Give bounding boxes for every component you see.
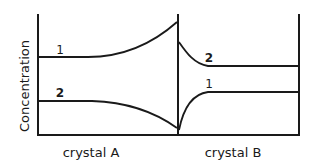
- y-axis-label: Concentration: [17, 40, 32, 132]
- crystal-b-label: crystal B: [205, 145, 262, 160]
- crystal-a-label: crystal A: [63, 145, 120, 160]
- curve-1-label-b: 1: [205, 77, 213, 91]
- curve-1-crystal-b: [179, 92, 299, 130]
- concentration-profile-diagram: 1 2 2 1 Concentration crystal A crystal …: [0, 0, 315, 165]
- curve-2-label-b: 2: [205, 51, 213, 65]
- curve-1-label-a: 1: [56, 43, 64, 57]
- curve-2-label-a: 2: [56, 86, 64, 100]
- curve-2-crystal-b: [179, 42, 299, 66]
- curve-2-crystal-a: [38, 101, 177, 128]
